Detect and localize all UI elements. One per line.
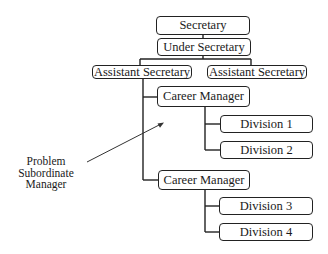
node-label: Under Secretary <box>163 41 245 54</box>
node-assistant-secretary-2: Assistant Secretary <box>207 65 307 79</box>
org-chart-diagram: Secretary Under Secretary Assistant Secr… <box>0 0 328 254</box>
node-division-2: Division 2 <box>220 141 313 159</box>
node-label: Division 2 <box>240 144 292 157</box>
node-career-manager-1: Career Manager <box>157 86 250 107</box>
annotation-line-1: Problem <box>10 156 82 168</box>
node-assistant-secretary-1: Assistant Secretary <box>92 65 192 79</box>
node-secretary: Secretary <box>156 16 250 35</box>
node-division-4: Division 4 <box>219 223 313 241</box>
node-label: Division 4 <box>240 226 292 239</box>
node-label: Secretary <box>179 19 226 32</box>
annotation-line-3: Manager <box>10 179 82 191</box>
node-division-3: Division 3 <box>219 197 313 215</box>
node-label: Assistant Secretary <box>94 66 190 79</box>
annotation-arrow <box>87 123 164 163</box>
node-label: Career Manager <box>164 174 245 187</box>
node-division-1: Division 1 <box>220 115 313 133</box>
annotation-label: Problem Subordinate Manager <box>10 156 82 191</box>
node-under-secretary: Under Secretary <box>157 38 251 56</box>
node-label: Assistant Secretary <box>209 66 305 79</box>
node-label: Division 1 <box>240 118 292 131</box>
node-label: Career Manager <box>163 90 244 103</box>
node-career-manager-2: Career Manager <box>158 170 250 190</box>
node-label: Division 3 <box>240 200 292 213</box>
